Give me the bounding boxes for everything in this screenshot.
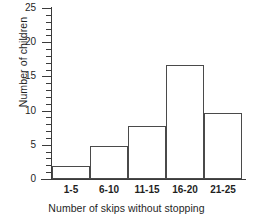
x-axis-line — [41, 179, 246, 180]
y-axis-tick-label: 25 — [0, 3, 36, 13]
y-axis-minor-tick — [46, 104, 52, 105]
y-axis-minor-tick — [46, 117, 52, 118]
y-axis-major-tick — [42, 42, 52, 43]
x-axis-title: Number of skips without stopping — [0, 202, 253, 214]
y-axis-minor-tick — [46, 83, 52, 84]
y-axis-minor-tick — [46, 131, 52, 132]
x-axis-tick-label: 1-5 — [52, 184, 90, 195]
y-axis-tick-label: 10 — [0, 106, 36, 116]
x-axis-tick-label: 6-10 — [90, 184, 128, 195]
y-axis-major-tick — [42, 179, 52, 180]
bar — [52, 166, 90, 179]
y-axis-minor-tick — [46, 124, 52, 125]
y-axis-minor-tick — [46, 29, 52, 30]
x-axis-tick-label: 11-15 — [128, 184, 166, 195]
y-axis-major-tick — [42, 76, 52, 77]
y-axis-minor-tick — [46, 63, 52, 64]
y-axis-minor-tick — [46, 56, 52, 57]
y-axis-title: Number of children — [17, 0, 29, 137]
bar — [166, 65, 204, 179]
y-axis-minor-tick — [46, 138, 52, 139]
y-axis-line — [51, 7, 52, 180]
x-axis-tick-label: 16-20 — [166, 184, 204, 195]
y-axis-minor-tick — [46, 90, 52, 91]
y-axis-major-tick — [42, 145, 52, 146]
bar — [204, 113, 242, 179]
y-axis-minor-tick — [46, 97, 52, 98]
y-axis-tick-label: 15 — [0, 71, 36, 81]
y-axis-minor-tick — [46, 15, 52, 16]
y-axis-tick-label: 0 — [0, 174, 36, 184]
y-axis-major-tick — [42, 111, 52, 112]
bar — [128, 126, 166, 179]
y-axis-minor-tick — [46, 22, 52, 23]
histogram-chart: Number of children 0510152025 1-56-1011-… — [0, 0, 253, 219]
y-axis-minor-tick — [46, 35, 52, 36]
y-axis-tick-label: 5 — [0, 140, 36, 150]
y-axis-minor-tick — [46, 70, 52, 71]
y-axis-minor-tick — [46, 158, 52, 159]
y-axis-tick-label: 20 — [0, 37, 36, 47]
y-axis-minor-tick — [46, 152, 52, 153]
bar — [90, 146, 128, 179]
x-axis-tick-label: 21-25 — [204, 184, 242, 195]
y-axis-major-tick — [42, 8, 52, 9]
y-axis-minor-tick — [46, 49, 52, 50]
